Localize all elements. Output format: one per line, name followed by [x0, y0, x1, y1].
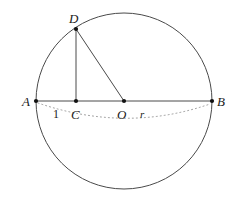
point-dot-c [74, 99, 78, 103]
figure-canvas: A C O B D 1 r [0, 0, 240, 200]
point-dot-o [122, 99, 126, 103]
measure-label-r: r [140, 108, 145, 120]
point-label-b: B [217, 94, 225, 109]
point-label-o: O [117, 107, 127, 122]
point-label-c: C [71, 107, 80, 122]
point-dot-d [74, 27, 78, 31]
measure-label-one: 1 [53, 107, 59, 121]
geometry-figure: A C O B D 1 r [0, 0, 240, 200]
point-label-a: A [21, 94, 30, 109]
point-dot-a [34, 99, 38, 103]
point-dot-b [210, 99, 214, 103]
point-label-d: D [68, 11, 79, 26]
